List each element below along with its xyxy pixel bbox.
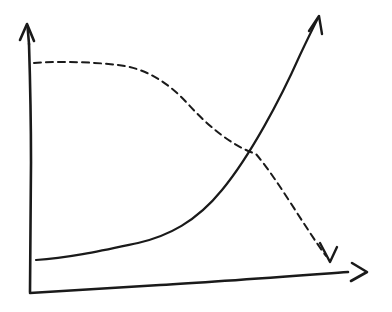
paper-background: [0, 0, 392, 312]
y-axis-tip-stub: [28, 26, 30, 44]
sketch-chart-canvas: [0, 0, 392, 312]
chart-svg: [0, 0, 392, 312]
